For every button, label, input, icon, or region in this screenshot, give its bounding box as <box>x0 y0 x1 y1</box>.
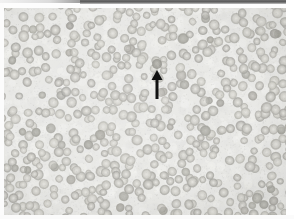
figure-page <box>0 0 294 219</box>
page-right-margin <box>286 0 294 219</box>
blood-smear-micrograph <box>4 8 286 215</box>
scan-edge-band <box>80 0 294 4</box>
red-blood-cell-field <box>4 8 286 215</box>
scan-edge-band-fade <box>0 0 82 3</box>
page-bottom-margin <box>0 215 294 219</box>
